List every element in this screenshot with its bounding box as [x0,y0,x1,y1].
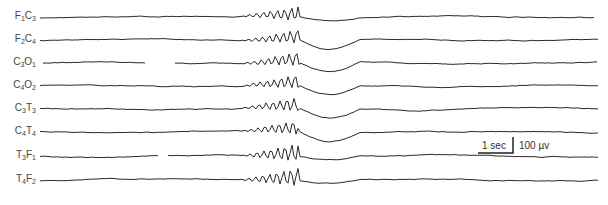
eeg-trace-c4t4 [40,123,598,142]
scale-amplitude-label: 100 µv [519,140,549,152]
eeg-trace-t3f1 [40,145,598,160]
eeg-trace-c3o1 [43,54,597,72]
scale-time-label: 1 sec [482,140,506,152]
eeg-traces [0,0,608,205]
eeg-trace-t4f2 [40,169,598,186]
eeg-trace-f1c3 [40,7,598,21]
eeg-trace-c3t3 [40,98,598,118]
eeg-trace-f2c4 [40,31,598,50]
eeg-trace-c4o2 [40,77,598,95]
